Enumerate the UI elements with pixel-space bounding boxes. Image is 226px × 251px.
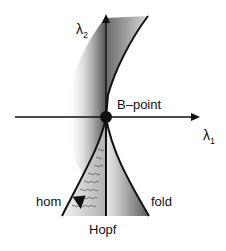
b-point-marker bbox=[100, 111, 112, 123]
shaded-region-lower-right bbox=[106, 118, 149, 216]
x-axis-arrow-icon bbox=[191, 113, 200, 121]
x-axis-label: λ1 bbox=[203, 127, 215, 146]
fold-label: fold bbox=[151, 194, 172, 209]
b-point-label: B–point bbox=[117, 97, 161, 112]
hom-label: hom bbox=[36, 194, 61, 209]
hopf-label: Hopf bbox=[89, 222, 117, 237]
y-axis-label: λ2 bbox=[76, 21, 88, 40]
bifurcation-diagram: λ2 λ1 B–point hom fold Hopf bbox=[0, 0, 226, 251]
